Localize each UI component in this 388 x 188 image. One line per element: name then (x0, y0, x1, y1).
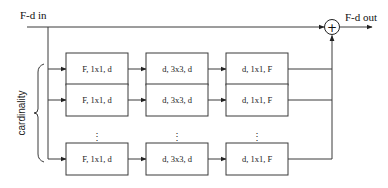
ellipsis-col-1: ⋮ (92, 131, 102, 142)
cardinality-brace (34, 64, 44, 162)
conv-block-label: d, 3x3, d (162, 154, 193, 164)
cardinality-label: cardinality (16, 90, 27, 135)
conv-block-label: d, 1x1, F (242, 95, 273, 105)
resnext-block-diagram: F-d in + F-d out cardinality F, 1x1, dd,… (0, 0, 388, 188)
sum-node: + (325, 20, 340, 35)
branch-row: F, 1x1, dd, 3x3, dd, 1x1, F (48, 143, 332, 175)
conv-block-label: d, 3x3, d (162, 64, 193, 74)
conv-block-label: d, 3x3, d (162, 95, 193, 105)
branch-rows: F, 1x1, dd, 3x3, dd, 1x1, FF, 1x1, dd, 3… (48, 53, 332, 175)
branch-row: F, 1x1, dd, 3x3, dd, 1x1, F (48, 53, 332, 85)
ellipsis-col-3: ⋮ (252, 131, 262, 142)
conv-block-label: F, 1x1, d (82, 64, 112, 74)
output-label: F-d out (345, 11, 377, 23)
ellipsis-col-2: ⋮ (172, 131, 182, 142)
branch-row: F, 1x1, dd, 3x3, dd, 1x1, F (48, 84, 332, 116)
plus-icon: + (327, 21, 337, 35)
conv-block-label: d, 1x1, F (242, 154, 273, 164)
conv-block-label: F, 1x1, d (82, 154, 112, 164)
input-label: F-d in (20, 9, 47, 21)
conv-block-label: F, 1x1, d (82, 95, 112, 105)
conv-block-label: d, 1x1, F (242, 64, 273, 74)
